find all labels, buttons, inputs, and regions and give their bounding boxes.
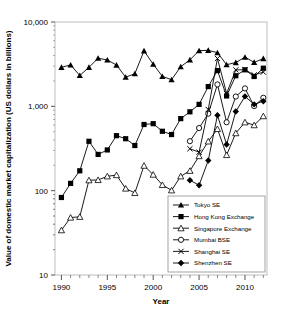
- data-point-marker: [224, 152, 230, 158]
- legend-label: Hong Kong Exchange: [194, 213, 255, 220]
- data-point-marker: [242, 119, 248, 125]
- data-point-marker: [123, 186, 129, 192]
- data-point-marker: [114, 133, 119, 138]
- legend-label: Mumbai BSE: [194, 236, 230, 243]
- data-point-marker: [105, 147, 110, 152]
- legend-label: Shenzhen SE: [194, 259, 232, 266]
- data-point-marker: [168, 187, 174, 193]
- data-point-marker: [150, 61, 156, 67]
- data-point-marker: [168, 77, 174, 83]
- data-point-marker: [242, 86, 247, 91]
- data-point-marker: [77, 168, 82, 173]
- data-point-marker: [196, 102, 201, 107]
- y-axis-tick-label: 100: [35, 187, 49, 196]
- data-point-marker: [178, 214, 183, 219]
- data-point-marker: [187, 146, 192, 151]
- y-axis-tick-label: 10,000: [24, 18, 49, 27]
- data-point-marker: [86, 139, 91, 144]
- series-line: [190, 96, 263, 185]
- data-point-marker: [242, 54, 248, 60]
- data-point-marker: [206, 84, 211, 89]
- legend-label: Shanghai SE: [194, 248, 230, 255]
- x-axis-tick-label: 1990: [53, 283, 71, 292]
- data-point-marker: [132, 190, 138, 196]
- x-axis-tick-label: 1995: [98, 283, 116, 292]
- data-point-marker: [196, 182, 202, 188]
- x-axis-title: Year: [153, 297, 170, 306]
- data-point-marker: [205, 138, 211, 144]
- market-capitalization-chart: 101001,00010,00019901995200020052010Year…: [0, 0, 286, 321]
- y-axis-tick-label: 10: [39, 271, 48, 280]
- data-point-marker: [205, 157, 211, 163]
- data-point-marker: [132, 71, 138, 77]
- data-point-marker: [187, 109, 192, 114]
- data-point-marker: [113, 172, 119, 178]
- chart-canvas: 101001,00010,00019901995200020052010Year…: [0, 0, 286, 321]
- data-point-marker: [59, 195, 64, 200]
- data-point-marker: [233, 108, 239, 114]
- data-point-marker: [196, 125, 201, 130]
- y-axis-tick-label: 1,000: [28, 102, 49, 111]
- data-point-marker: [215, 82, 220, 87]
- series-mumbai-bse: [187, 82, 266, 144]
- data-point-marker: [58, 227, 64, 233]
- data-point-marker: [187, 168, 193, 174]
- data-point-marker: [214, 112, 220, 118]
- data-point-marker: [160, 129, 165, 134]
- data-point-marker: [132, 143, 137, 148]
- x-axis-tick-label: 2010: [236, 283, 254, 292]
- x-axis-tick-label: 2000: [144, 283, 162, 292]
- data-point-marker: [141, 163, 147, 169]
- data-point-marker: [187, 139, 192, 144]
- data-point-marker: [251, 59, 257, 65]
- data-point-marker: [233, 60, 239, 66]
- data-point-marker: [223, 141, 229, 147]
- data-point-marker: [141, 122, 146, 127]
- data-point-marker: [187, 177, 193, 183]
- legend-label: Singapore Exchange: [194, 225, 252, 232]
- data-point-marker: [141, 48, 147, 54]
- data-point-marker: [178, 237, 183, 242]
- data-point-marker: [224, 120, 229, 125]
- data-point-marker: [68, 62, 74, 68]
- data-point-marker: [260, 113, 266, 119]
- data-point-marker: [68, 181, 73, 186]
- legend-label: Tokyo SE: [194, 201, 220, 208]
- data-point-marker: [178, 173, 184, 179]
- data-point-marker: [260, 56, 266, 62]
- data-point-marker: [95, 55, 101, 61]
- data-point-marker: [169, 132, 174, 137]
- data-point-marker: [113, 62, 119, 68]
- data-point-marker: [96, 152, 101, 157]
- data-point-marker: [151, 121, 156, 126]
- data-point-marker: [233, 94, 238, 99]
- y-axis-title: Value of domestic market capitalization …: [4, 30, 13, 266]
- x-axis-tick-label: 2005: [190, 283, 208, 292]
- data-point-marker: [178, 116, 183, 121]
- data-point-marker: [123, 136, 128, 141]
